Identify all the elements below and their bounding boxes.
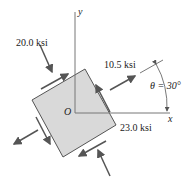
stress-element-diagram: y x O 20.0 ksi 10.5 ksi 23.0 ksi θ = 30° bbox=[0, 0, 193, 186]
normal-arrow-left bbox=[14, 130, 38, 144]
normal-arrow-right bbox=[110, 76, 135, 90]
y-axis-label: y bbox=[78, 6, 82, 17]
normal-arrow-bottom bbox=[98, 150, 110, 176]
diagram-graphics bbox=[0, 0, 193, 186]
normal-arrow-top-left bbox=[40, 45, 52, 72]
compressive-stress-label: 20.0 ksi bbox=[16, 37, 48, 48]
tensile-stress-label: 23.0 ksi bbox=[120, 122, 152, 133]
angle-label: θ = 30° bbox=[150, 80, 181, 91]
x-axis-label: x bbox=[168, 113, 172, 124]
shear-stress-label: 10.5 ksi bbox=[104, 59, 136, 70]
origin-label: O bbox=[64, 106, 71, 117]
